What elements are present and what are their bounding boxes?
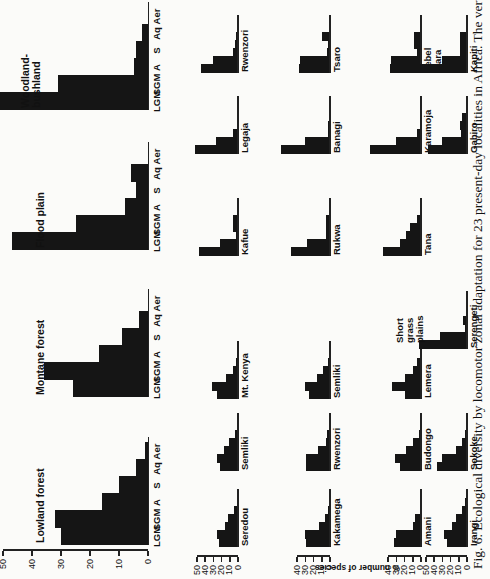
tick-label: 0: [144, 559, 153, 575]
tick-label: 10: [225, 565, 234, 579]
bar-a: [224, 447, 238, 456]
locality-rwenzori-chart: [281, 419, 330, 471]
axis-line: [3, 550, 148, 552]
category-label: Aer: [151, 291, 162, 316]
locality-mt-kenya-chart: [189, 347, 238, 399]
tick-label: 0: [234, 565, 243, 579]
bar-a: [125, 199, 148, 217]
locality-label: Semliki: [332, 365, 342, 398]
bar-sgm: [44, 363, 148, 381]
tick-label: 20: [217, 565, 226, 579]
axis-tick: [450, 557, 452, 562]
bar-sgm: [442, 138, 467, 147]
bar-sgm: [306, 455, 330, 464]
bar-sgm: [305, 383, 330, 392]
bar-s: [456, 515, 467, 524]
baseline: [148, 142, 150, 250]
bar-sgm: [76, 216, 149, 234]
habitat-title: Lowland forest: [35, 468, 46, 543]
bar-lgm: [309, 391, 330, 400]
baseline: [148, 437, 150, 545]
locality-label: Rwenzori: [240, 30, 250, 72]
axis-line: [197, 556, 238, 558]
locality-gabiro-chart: [418, 102, 467, 154]
axis-tick: [60, 551, 62, 556]
locality-label: Banagi: [332, 121, 342, 153]
locality-budongo-chart: [372, 419, 421, 471]
bar-lgm: [219, 539, 238, 548]
locality-label: Lemera: [423, 364, 433, 398]
bar-a: [456, 447, 467, 456]
bar-s: [136, 42, 148, 60]
bar-sgm: [305, 531, 330, 540]
bar-lgm: [419, 65, 467, 74]
bar-lgm: [447, 539, 467, 548]
axis-tick: [118, 551, 120, 556]
bar-lgm: [419, 341, 467, 350]
bar-s: [119, 477, 148, 495]
bar-a: [102, 494, 148, 512]
category-label: Aer: [151, 144, 162, 169]
bar-lgm: [291, 248, 330, 257]
locality-karamoja-chart: [372, 102, 421, 154]
bar-a: [319, 523, 330, 532]
axis-tick: [412, 557, 414, 562]
bar-sgm: [307, 240, 330, 249]
category-label: Aer: [151, 4, 162, 29]
bar-s: [410, 224, 421, 233]
short-grass-label: Short grass plains: [395, 293, 425, 343]
axis-tick: [213, 557, 215, 562]
locality-irangi-chart: [418, 495, 467, 547]
locality-kapiti-chart: [418, 21, 467, 73]
locality-banagi-chart: [281, 102, 330, 154]
bar-a: [405, 375, 421, 384]
bar-lgm: [437, 463, 467, 472]
tick-label: 30: [301, 565, 310, 579]
axis-tick: [204, 557, 206, 562]
tick-label: 40: [201, 565, 210, 579]
habitat-flood-plain-chart: [0, 144, 148, 250]
axis-tick: [404, 557, 406, 562]
bar-sgm: [55, 511, 148, 529]
locality-label: Legaja: [240, 123, 250, 153]
baseline: [148, 2, 150, 110]
bar-lgm: [299, 65, 330, 74]
locality-jebel-mara-chart: [372, 21, 421, 73]
bar-sgm: [442, 455, 467, 464]
axis-line: [426, 556, 467, 558]
bar-aq: [131, 165, 148, 183]
habitat-lowland-forest-chart: [0, 439, 148, 545]
bar-sgm: [305, 138, 330, 147]
axis-tick: [387, 557, 389, 562]
locality-tsaro-chart: [281, 21, 330, 73]
bar-s: [122, 329, 148, 347]
bar-a: [134, 59, 149, 77]
tick-label: 30: [57, 559, 66, 575]
axis-tick: [420, 557, 422, 562]
habitat-title: Montane forest: [35, 320, 46, 395]
locality-lemera-chart: [372, 347, 421, 399]
bar-sgm: [217, 531, 238, 540]
locality-rwenzori-chart: [189, 21, 238, 73]
bar-lgm: [405, 391, 421, 400]
locality-rukwa-chart: [281, 204, 330, 256]
axis-tick: [425, 557, 427, 562]
tick-label: 20: [86, 559, 95, 575]
bar-lgm: [217, 391, 238, 400]
bar-lgm: [390, 65, 421, 74]
axis-tick: [221, 557, 223, 562]
locality-sokoke-chart: [418, 419, 467, 471]
locality-label: Rwenzori: [332, 428, 342, 470]
tick-label: 50: [0, 559, 8, 575]
tick-label: 40: [430, 565, 439, 579]
axis-tick: [396, 557, 398, 562]
locality-label: Tsaro: [332, 47, 342, 72]
tick-label: 20: [446, 565, 455, 579]
bar-sgm: [212, 383, 238, 392]
category-label: Aer: [151, 439, 162, 464]
locality-label: Rukwa: [332, 224, 342, 255]
habitat-title: Woodland- bushland: [20, 38, 42, 108]
tick-label: 10: [115, 559, 124, 575]
bar-lgm: [306, 539, 330, 548]
axis-tick: [229, 557, 231, 562]
